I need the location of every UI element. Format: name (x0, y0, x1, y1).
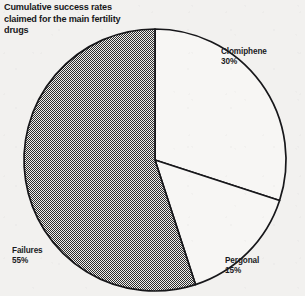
pie-graphic (0, 0, 305, 296)
slice-label-clomiphene-value: 30% (221, 56, 267, 66)
slice-label-pergonal-value: 15% (225, 265, 259, 275)
slice-label-failures-name: Failures (12, 245, 43, 255)
chart-title-line-3: drugs (4, 24, 156, 36)
slice-label-clomiphene: Clomiphene 30% (221, 46, 267, 67)
slice-label-failures: Failures 55% (12, 245, 43, 266)
chart-title-line-1: Cumulative success rates (4, 1, 156, 13)
chart-title: Cumulative success rates claimed for the… (4, 1, 162, 36)
slice-label-pergonal: Pergonal 15% (225, 255, 259, 276)
chart-title-line-2: claimed for the main fertility (4, 13, 156, 25)
pie-chart-figure: Cumulative success rates claimed for the… (0, 0, 305, 296)
slice-label-pergonal-name: Pergonal (225, 255, 259, 265)
slice-label-clomiphene-name: Clomiphene (221, 46, 267, 56)
slice-label-failures-value: 55% (12, 255, 43, 265)
pie-slices-group (24, 29, 286, 291)
